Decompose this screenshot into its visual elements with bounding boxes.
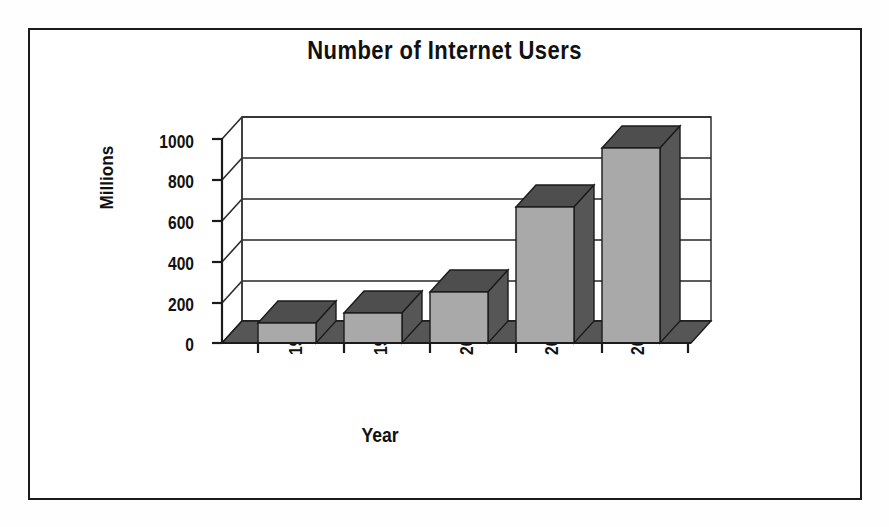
x-tick-label-2000: 2000 [456,320,478,355]
y-tick-label-400: 400 [130,253,194,275]
bar-2000-top [430,270,508,292]
bar-2002-side [660,126,680,343]
chart-back-wall [242,117,711,321]
bar-1999-side [402,291,422,343]
chart-gridlines [242,117,711,321]
figure-page: Number of Internet Users 1000 800 600 40… [0,0,889,527]
chart-plot-area: 1000 800 600 400 200 0 Millions 1998 199… [0,0,889,527]
y-tick-label-0: 0 [130,334,194,356]
bar-1998-side [316,301,336,343]
x-tick-label-2001: 2001 [541,320,563,355]
y-tick-label-800: 800 [130,171,194,193]
bar-2002-front [602,148,660,343]
chart-depth-connectors [222,117,242,343]
y-tick-label-200: 200 [130,294,194,316]
bar-2002[interactable] [602,126,680,343]
bar-2001-top [516,185,594,207]
y-tick-label-600: 600 [130,212,194,234]
bar-1999-top [344,291,422,313]
y-tick-label-1000: 1000 [130,131,194,153]
x-axis-title: Year [46,424,715,447]
bar-2001[interactable] [516,185,594,343]
bar-2001-side [574,185,594,343]
y-axis-ticks [212,139,222,343]
y-axis-title: Millions [96,183,118,210]
x-tick-label-1999: 1999 [370,320,392,355]
x-tick-label-1998: 1998 [285,320,307,355]
bar-2000-side [488,270,508,343]
bar-2002-top [602,126,680,148]
x-tick-label-2002: 2002 [627,320,649,355]
